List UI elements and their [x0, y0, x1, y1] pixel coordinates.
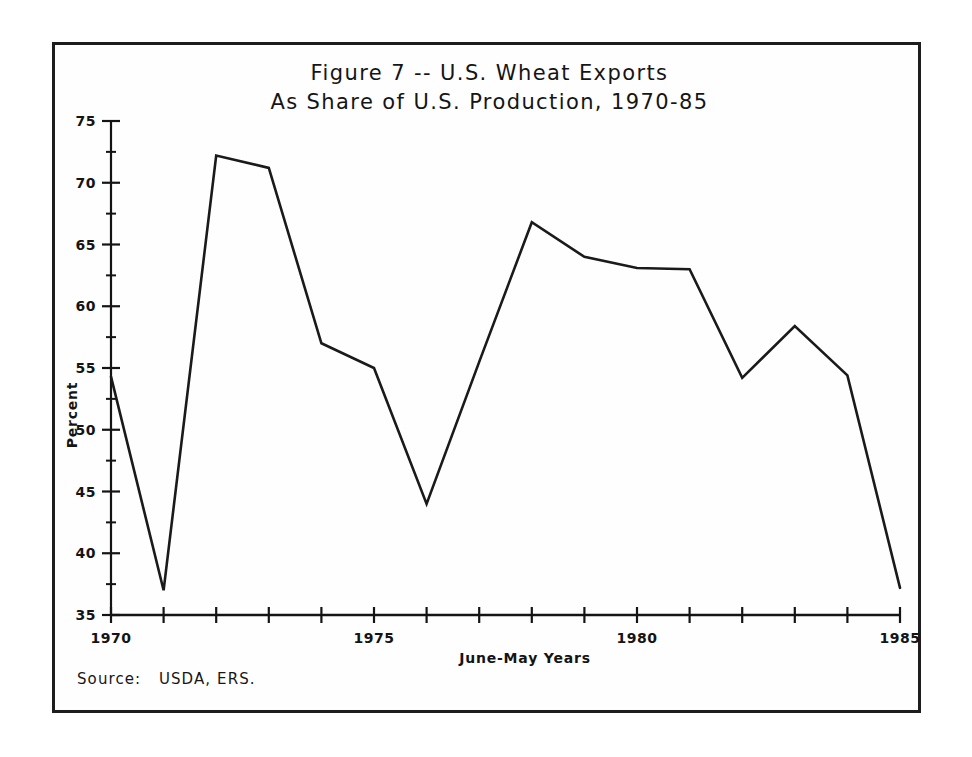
- y-tick-label: 60: [76, 298, 96, 314]
- y-axis-label: Percent: [64, 382, 80, 449]
- data-series-line: [111, 156, 900, 591]
- y-tick-label: 55: [76, 360, 96, 376]
- x-tick-label: 1985: [880, 630, 921, 646]
- x-axis: 1970197519801985: [91, 607, 921, 646]
- y-tick-label: 65: [76, 237, 96, 253]
- line-chart: 354045505560657075 1970197519801985 Perc…: [55, 45, 924, 716]
- y-tick-label: 70: [76, 175, 96, 191]
- figure-root: Figure 7 -- U.S. Wheat Exports As Share …: [0, 0, 972, 757]
- y-tick-label: 35: [76, 607, 96, 623]
- x-tick-label: 1980: [617, 630, 658, 646]
- x-tick-label: 1970: [91, 630, 132, 646]
- x-axis-label: June-May Years: [458, 650, 591, 666]
- series-path: [111, 156, 900, 591]
- source-note: Source: USDA, ERS.: [77, 670, 256, 688]
- y-tick-label: 45: [76, 484, 96, 500]
- y-tick-label: 40: [76, 545, 96, 561]
- figure-border: Figure 7 -- U.S. Wheat Exports As Share …: [52, 42, 921, 713]
- y-axis: 354045505560657075: [76, 113, 120, 623]
- x-tick-label: 1975: [354, 630, 395, 646]
- y-tick-label: 75: [76, 113, 96, 129]
